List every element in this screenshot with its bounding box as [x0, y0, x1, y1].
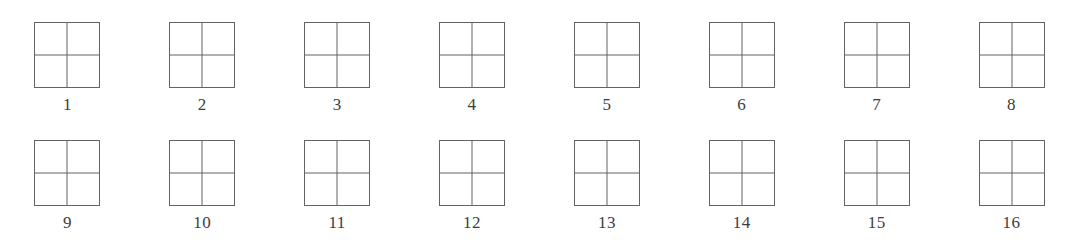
grid-item-8[interactable]: 8 [944, 0, 1079, 114]
two-by-two-grid-square-icon [709, 22, 775, 88]
grid-item-label: 14 [733, 213, 751, 232]
grid-item-label: 2 [198, 95, 207, 114]
figure-panel: 1 2 3 4 [0, 0, 1079, 252]
grid-item-15[interactable]: 15 [809, 118, 944, 232]
horizontal-divider [35, 173, 99, 174]
horizontal-divider [35, 55, 99, 56]
two-by-two-grid-square-icon [979, 22, 1045, 88]
horizontal-divider [170, 173, 234, 174]
two-by-two-grid-square-icon [304, 140, 370, 206]
grid-item-label: 13 [598, 213, 616, 232]
grid-item-label: 5 [602, 95, 611, 114]
two-by-two-grid-square-icon [169, 22, 235, 88]
grid-item-label: 4 [468, 95, 477, 114]
two-by-two-grid-square-icon [34, 22, 100, 88]
grid-item-1[interactable]: 1 [0, 0, 135, 114]
horizontal-divider [980, 173, 1044, 174]
two-by-two-grid-square-icon [439, 22, 505, 88]
horizontal-divider [440, 55, 504, 56]
grid-item-14[interactable]: 14 [674, 118, 809, 232]
grid-item-2[interactable]: 2 [135, 0, 270, 114]
horizontal-divider [575, 55, 639, 56]
grid-item-5[interactable]: 5 [540, 0, 675, 114]
horizontal-divider [305, 173, 369, 174]
two-by-two-grid-square-icon [574, 140, 640, 206]
two-by-two-grid-square-icon [34, 140, 100, 206]
horizontal-divider [980, 55, 1044, 56]
horizontal-divider [170, 55, 234, 56]
grid-item-label: 6 [737, 95, 746, 114]
horizontal-divider [710, 173, 774, 174]
grid-item-label: 15 [868, 213, 886, 232]
horizontal-divider [845, 173, 909, 174]
figure-row-1: 1 2 3 4 [0, 0, 1079, 126]
two-by-two-grid-square-icon [304, 22, 370, 88]
two-by-two-grid-square-icon [979, 140, 1045, 206]
two-by-two-grid-square-icon [709, 140, 775, 206]
grid-item-11[interactable]: 11 [270, 118, 405, 232]
two-by-two-grid-square-icon [169, 140, 235, 206]
grid-item-3[interactable]: 3 [270, 0, 405, 114]
grid-item-label: 11 [329, 213, 346, 232]
horizontal-divider [305, 55, 369, 56]
grid-item-13[interactable]: 13 [540, 118, 675, 232]
figure-row-2: 9 10 11 12 [0, 118, 1079, 244]
grid-item-7[interactable]: 7 [809, 0, 944, 114]
horizontal-divider [710, 55, 774, 56]
grid-item-10[interactable]: 10 [135, 118, 270, 232]
grid-item-label: 10 [193, 213, 211, 232]
grid-item-label: 16 [1003, 213, 1021, 232]
grid-item-12[interactable]: 12 [405, 118, 540, 232]
grid-item-label: 7 [872, 95, 881, 114]
grid-item-9[interactable]: 9 [0, 118, 135, 232]
grid-item-6[interactable]: 6 [674, 0, 809, 114]
two-by-two-grid-square-icon [844, 22, 910, 88]
grid-item-4[interactable]: 4 [405, 0, 540, 114]
grid-item-label: 8 [1007, 95, 1016, 114]
two-by-two-grid-square-icon [574, 22, 640, 88]
grid-item-label: 1 [63, 95, 72, 114]
grid-item-label: 3 [333, 95, 342, 114]
grid-item-label: 12 [463, 213, 481, 232]
grid-item-label: 9 [63, 213, 72, 232]
horizontal-divider [440, 173, 504, 174]
two-by-two-grid-square-icon [439, 140, 505, 206]
grid-item-16[interactable]: 16 [944, 118, 1079, 232]
horizontal-divider [845, 55, 909, 56]
horizontal-divider [575, 173, 639, 174]
two-by-two-grid-square-icon [844, 140, 910, 206]
